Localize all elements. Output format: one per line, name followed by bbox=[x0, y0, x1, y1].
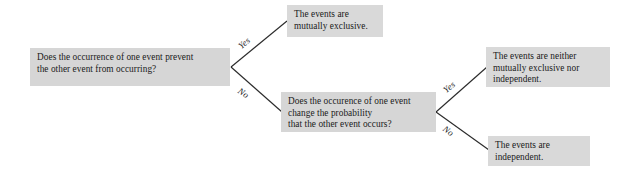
decision-tree-diagram: Does the occurrence of one event prevent… bbox=[0, 0, 624, 174]
node-independent-outcome: The events are independent. bbox=[488, 136, 590, 166]
node-neither-outcome: The events are neither mutually exclusiv… bbox=[486, 47, 610, 87]
node-mutually-exclusive: The events are mutually exclusive. bbox=[287, 5, 383, 37]
node-root-question: Does the occurrence of one event prevent… bbox=[30, 48, 230, 86]
node-second-question: Does the occurence of one event change t… bbox=[281, 92, 436, 132]
